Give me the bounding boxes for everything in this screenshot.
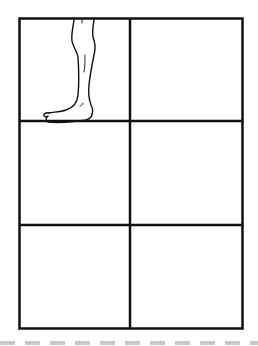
panel-r3-c2 [132, 227, 241, 327]
cut-line-dashed [0, 341, 258, 345]
panel-r2-c2 [132, 123, 241, 224]
panel-r3-c1 [21, 227, 129, 327]
grid-lines [18, 17, 244, 330]
panel-r2-c1 [21, 123, 129, 224]
panel-r1-c2 [132, 20, 241, 120]
storyboard-grid [18, 17, 244, 330]
